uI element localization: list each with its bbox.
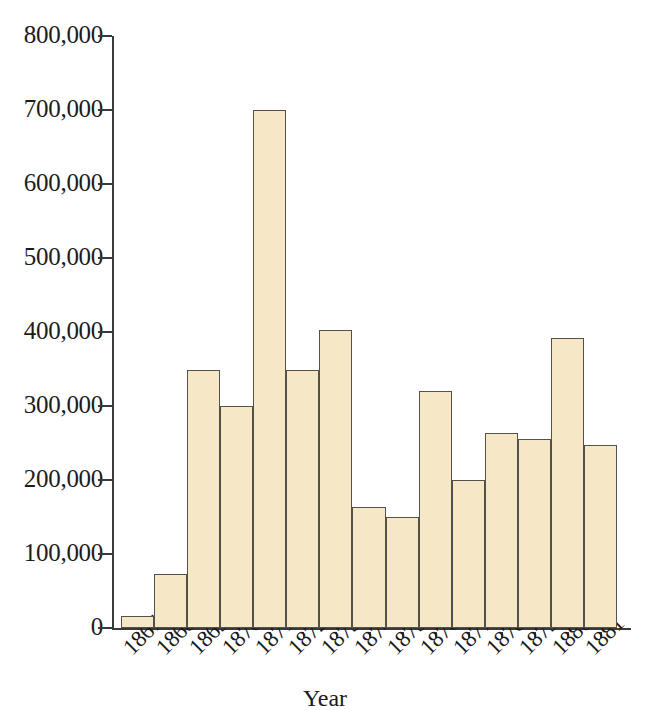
y-axis-tick-mark [98, 257, 112, 259]
y-axis-tick-mark [98, 405, 112, 407]
bar [121, 616, 154, 628]
x-axis-title: Year [0, 684, 650, 710]
bar [584, 445, 617, 628]
bar [253, 110, 286, 628]
y-axis-tick-mark [98, 35, 112, 37]
y-axis-tick-mark [98, 627, 112, 629]
y-axis-tick-mark [98, 553, 112, 555]
bar [452, 480, 485, 628]
y-axis-tick-mark [98, 109, 112, 111]
bar [419, 391, 452, 628]
y-axis-tick-mark [98, 331, 112, 333]
y-axis-tick-label: 700,000 [3, 93, 103, 125]
bar [485, 433, 518, 628]
bar [187, 370, 220, 628]
y-axis-tick-label: 800,000 [3, 19, 103, 51]
y-axis-tick-label: 100,000 [3, 537, 103, 569]
y-axis-tick-label: 500,000 [3, 241, 103, 273]
y-axis-tick-label: 0 [3, 611, 103, 643]
bar [551, 338, 584, 628]
y-axis-tick-label: 200,000 [3, 463, 103, 495]
y-axis-tick-mark [98, 479, 112, 481]
bar [352, 507, 385, 628]
bar [386, 517, 419, 628]
y-axis-tick-label: 600,000 [3, 167, 103, 199]
bars-layer [121, 36, 617, 628]
bar [154, 574, 187, 628]
bar [220, 406, 253, 628]
x-axis-ticks: 1867186818691870187118721873187418751876… [121, 632, 617, 692]
y-axis-tick-mark [98, 183, 112, 185]
y-axis-tick-label: 400,000 [3, 315, 103, 347]
y-axis-line [112, 36, 114, 629]
y-axis-tick-label: 300,000 [3, 389, 103, 421]
bar [518, 439, 551, 628]
bar [286, 370, 319, 628]
bar [319, 330, 352, 628]
